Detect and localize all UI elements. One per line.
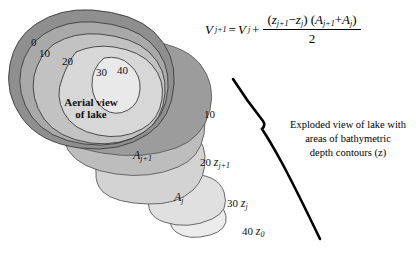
aerial-view-label-line1: Aerial view	[48, 96, 134, 108]
num-A1-sub: j+1	[323, 19, 335, 28]
aerial-contour-label-0: 0	[31, 36, 37, 48]
exploded-depth-label-30: 30 zj	[227, 196, 248, 211]
caption-line-3: depth contours (z)	[282, 146, 414, 160]
formula-rhs-sub: j	[248, 25, 250, 34]
exploded-area-label-j-plus-1: Aj+1	[133, 148, 152, 163]
formula-lhs-V: V	[205, 22, 213, 38]
formula-fraction: (zj+1−zj) (Aj+1+Aj) 2	[263, 12, 360, 47]
caption-line-1: Exploded view of lake with	[282, 118, 414, 132]
num-plus: +	[335, 12, 342, 27]
exploded-depth-label-10: 10	[204, 108, 215, 120]
num-A2: A	[342, 12, 350, 27]
num-close-paren-2: )	[352, 12, 356, 27]
aerial-view-label-line2: of lake	[48, 108, 134, 120]
formula-denominator: 2	[309, 30, 316, 47]
num-z1-sub: j+1	[277, 19, 289, 28]
aerial-view-contours	[9, 10, 175, 149]
aerial-contour-label-20: 20	[62, 55, 73, 67]
volume-formula: Vj+1 = Vj + (zj+1−zj) (Aj+1+Aj) 2	[205, 12, 363, 47]
num-minus: −	[288, 12, 295, 27]
exploded-view-caption: Exploded view of lake with areas of bath…	[282, 118, 414, 160]
formula-plus: +	[252, 22, 259, 38]
aerial-contour-label-40: 40	[117, 64, 128, 76]
num-close-paren-1: )	[303, 12, 307, 27]
depth-30-value: 30	[227, 197, 238, 209]
area-j1-sub: j+1	[140, 154, 152, 163]
exploded-area-label-j: Aj	[174, 190, 184, 205]
depth-40-value: 40	[242, 225, 253, 237]
depth-20-z-sub: j+1	[218, 161, 230, 170]
depth-30-z-sub: j	[245, 202, 247, 211]
formula-equals: =	[229, 22, 236, 38]
exploded-depth-label-20: 20 zj+1	[200, 155, 230, 170]
aerial-contour-label-30: 30	[96, 66, 107, 78]
caption-line-2: areas of bathymetric	[282, 132, 414, 146]
depth-20-value: 20	[200, 156, 211, 168]
formula-rhs-V: V	[238, 22, 246, 38]
depth-40-z-sub: 0	[260, 230, 264, 239]
exploded-depth-label-40: 40 z0	[242, 224, 264, 239]
aerial-contour-label-10: 10	[39, 47, 50, 59]
formula-lhs-sub: j+1	[215, 25, 227, 34]
area-j-sub: j	[181, 196, 183, 205]
formula-numerator: (zj+1−zj) (Aj+1+Aj)	[263, 12, 360, 30]
num-A1: A	[315, 12, 323, 27]
aerial-view-label: Aerial view of lake	[48, 96, 134, 121]
